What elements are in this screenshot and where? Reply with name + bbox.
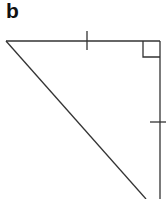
hypotenuse — [6, 41, 146, 199]
right-triangle-diagram — [0, 0, 166, 199]
right-angle-marker — [143, 41, 160, 57]
